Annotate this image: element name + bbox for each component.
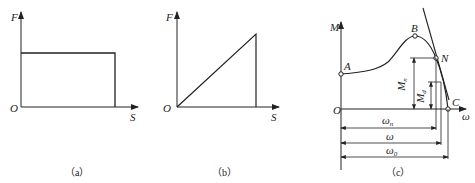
force-profile-triangle (177, 34, 256, 107)
point-A (339, 72, 343, 76)
panel-c-caption: （c） (386, 168, 410, 178)
diagram-canvas (0, 0, 475, 183)
panel-a-y-label: F (11, 12, 18, 23)
force-profile-rect (21, 53, 115, 107)
point-N-label: N (441, 53, 448, 64)
point-B-label: B (411, 23, 418, 34)
Mn-label: Mn (396, 78, 409, 91)
Md-label: Md (415, 90, 428, 103)
panel-a-x-label: S (130, 112, 136, 123)
panel-c-x-label: ω (462, 111, 470, 122)
omega-label: ω (386, 131, 394, 142)
panel-a-origin: O (10, 103, 18, 114)
omega-n-label: ωn (382, 115, 393, 128)
omega-0-label: ω0 (386, 145, 397, 158)
panel-b-graph (177, 12, 279, 107)
panel-b-x-label: S (271, 112, 277, 123)
panel-b-caption: （b） (212, 168, 237, 178)
panel-a-caption: （a） (65, 168, 89, 178)
panel-a-graph (21, 12, 138, 107)
panel-c-y-label: M (330, 22, 339, 33)
point-B (413, 34, 417, 38)
panel-b-origin: O (163, 103, 171, 114)
point-A-label: A (344, 61, 351, 72)
panel-b-y-label: F (166, 12, 173, 23)
panel-c-origin: O (333, 105, 341, 116)
torque-curve (341, 36, 448, 109)
point-C-label: C (452, 97, 459, 108)
